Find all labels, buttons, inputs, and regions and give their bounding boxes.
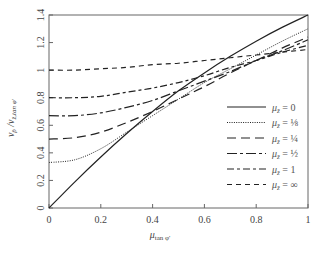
legend-label: μz̄ = ∞: [271, 179, 298, 192]
curve-5: [49, 49, 308, 70]
y-tick-label: 0: [35, 206, 46, 211]
legend-label: μz̄ = ¼: [271, 133, 298, 146]
y-tick-label: 1.4: [35, 9, 46, 22]
y-tick-label: 0.4: [35, 147, 46, 160]
x-tick-label: 0.4: [146, 214, 159, 225]
legend-label: μz̄ = ⅛: [271, 117, 298, 130]
x-tick-label: 0.6: [198, 214, 211, 225]
y-tick-label: 0.6: [35, 119, 46, 131]
plot-frame: [49, 15, 308, 208]
y-tick-label: 0.8: [35, 91, 46, 104]
curve-2: [49, 37, 308, 139]
y-axis-title: vp̄ /vz̄,tan φ': [5, 98, 18, 137]
curve-1: [49, 29, 308, 163]
axis-ticks: [49, 15, 308, 208]
y-tick-label: 0.2: [35, 174, 46, 187]
legend-label: μz̄ = 0: [271, 102, 295, 115]
curve-0: [49, 15, 308, 208]
x-axis-title: μtan φ': [149, 229, 171, 242]
legend-label: μz̄ = ½: [271, 148, 298, 161]
curve-3: [49, 40, 308, 116]
legend-label: μz̄ = 1: [271, 164, 295, 177]
tick-labels: 00.20.40.60.8100.20.40.60.811.21.4: [35, 9, 311, 225]
data-curves: [49, 15, 308, 208]
x-tick-label: 0: [47, 214, 52, 225]
x-tick-label: 0.8: [250, 214, 263, 225]
x-tick-label: 0.2: [95, 214, 108, 225]
x-axis-title-sub: tan φ': [155, 234, 171, 242]
legend: μz̄ = 0μz̄ = ⅛μz̄ = ¼μz̄ = ½μz̄ = 1μz̄ =…: [227, 102, 298, 193]
y-axis-title-sub2: z̄,tan φ': [10, 98, 18, 120]
y-tick-label: 1.2: [35, 36, 46, 49]
x-tick-label: 1: [306, 214, 311, 225]
line-chart: 00.20.40.60.8100.20.40.60.811.21.4 μz̄ =…: [0, 0, 321, 258]
y-tick-label: 1: [35, 68, 46, 73]
